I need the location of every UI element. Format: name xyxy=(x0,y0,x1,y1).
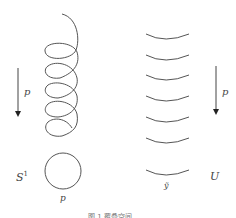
sheets-stack xyxy=(146,34,189,175)
right-arrow-label: p xyxy=(222,86,228,97)
u-label: U xyxy=(210,170,219,183)
right-arrow-head xyxy=(213,109,219,115)
circle-s1 xyxy=(45,153,81,189)
figure-caption: 图 1 覆叠空间 xyxy=(88,211,132,218)
s1-label: S1 xyxy=(16,170,28,184)
left-arrow-label: p xyxy=(24,86,30,97)
s1-label-sup: 1 xyxy=(24,170,28,178)
s1-label-base: S xyxy=(16,171,24,184)
circle-bottom-label: p xyxy=(60,193,66,203)
left-arrow-head xyxy=(15,111,21,117)
diagram-canvas xyxy=(0,0,236,218)
y-tilde-label: ỹ xyxy=(164,181,169,190)
helix-curve xyxy=(45,14,78,136)
